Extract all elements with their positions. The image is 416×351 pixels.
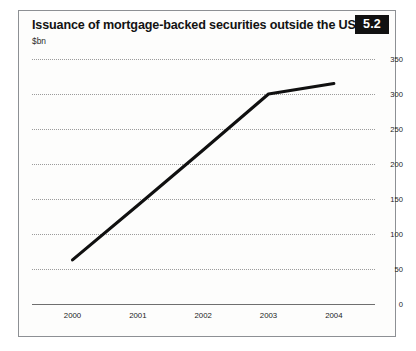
plot-canvas: 050100150200250300350 200020012002200320… bbox=[32, 59, 375, 304]
y-axis-tick-label: 200 bbox=[379, 160, 403, 169]
plot-area: 050100150200250300350 200020012002200320… bbox=[32, 59, 387, 336]
series-line bbox=[32, 59, 375, 304]
figure-number-badge: 5.2 bbox=[355, 15, 389, 34]
figure-frame: Issuance of mortgage-backed securities o… bbox=[18, 10, 396, 337]
x-axis-tick-label: 2002 bbox=[194, 311, 211, 320]
y-axis-tick-label: 0 bbox=[379, 300, 403, 309]
x-axis-line bbox=[32, 304, 375, 305]
x-axis-tick-label: 2000 bbox=[64, 311, 81, 320]
y-axis-tick-label: 300 bbox=[379, 90, 403, 99]
y-axis-tick-label: 250 bbox=[379, 125, 403, 134]
x-axis-tick-label: 2004 bbox=[325, 311, 342, 320]
x-axis-tick-label: 2003 bbox=[260, 311, 277, 320]
y-axis-tick-label: 50 bbox=[379, 265, 403, 274]
x-axis-tick-label: 2001 bbox=[129, 311, 146, 320]
y-axis-tick-label: 150 bbox=[379, 195, 403, 204]
page-title: Issuance of mortgage-backed securities o… bbox=[32, 18, 356, 32]
figure-header: Issuance of mortgage-backed securities o… bbox=[19, 11, 395, 59]
chart-units-label: $bn bbox=[32, 36, 46, 46]
y-axis-tick-label: 100 bbox=[379, 230, 403, 239]
y-axis-tick-label: 350 bbox=[379, 55, 403, 64]
